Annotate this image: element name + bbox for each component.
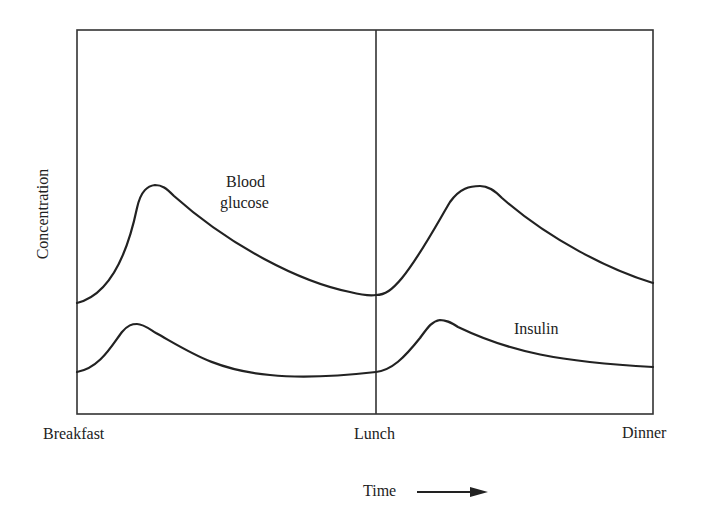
insulin-curve bbox=[77, 320, 653, 376]
x-tick-breakfast: Breakfast bbox=[43, 425, 104, 443]
blood-glucose-curve bbox=[77, 185, 653, 303]
x-axis-label: Time bbox=[363, 482, 396, 500]
plot-frame bbox=[77, 30, 653, 414]
x-tick-dinner: Dinner bbox=[622, 424, 666, 442]
y-axis-label: Concentration bbox=[34, 159, 52, 269]
insulin-label: Insulin bbox=[514, 320, 558, 338]
x-tick-lunch: Lunch bbox=[354, 425, 395, 443]
glucose-label-line2: glucose bbox=[220, 194, 269, 212]
chart-canvas bbox=[0, 0, 703, 528]
time-arrow-head-icon bbox=[470, 487, 488, 497]
glucose-label-line1: Blood bbox=[226, 173, 265, 191]
